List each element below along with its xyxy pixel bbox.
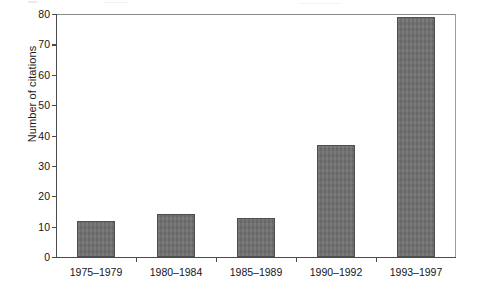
y-tick-mark — [52, 166, 57, 167]
y-tick-mark — [52, 75, 57, 76]
x-tick-mark — [296, 257, 297, 262]
plot-area: 01020304050607080 1975–19791980–19841985… — [56, 14, 456, 257]
y-tick-label: 70 — [38, 38, 50, 50]
bar-chart-figure: Number of citations 01020304050607080 19… — [0, 0, 477, 286]
x-tick-label: 1993–1997 — [390, 266, 443, 278]
y-tick-label: 0 — [44, 251, 50, 263]
x-tick-mark — [376, 257, 377, 262]
plot-frame-right — [455, 14, 456, 257]
bar — [317, 145, 355, 257]
bar — [77, 221, 115, 257]
y-tick-label: 20 — [38, 190, 50, 202]
x-tick-label: 1975–1979 — [70, 266, 123, 278]
y-tick-mark — [52, 227, 57, 228]
x-tick-mark — [216, 257, 217, 262]
x-tick-mark — [136, 257, 137, 262]
y-axis-title: Number of citations — [26, 14, 38, 174]
y-tick-label: 50 — [38, 99, 50, 111]
y-tick-label: 80 — [38, 8, 50, 20]
x-axis-line — [56, 257, 456, 258]
x-tick-label: 1980–1984 — [150, 266, 203, 278]
y-tick-mark — [52, 136, 57, 137]
y-tick-mark — [52, 14, 57, 15]
x-tick-label: 1990–1992 — [310, 266, 363, 278]
y-tick-mark — [52, 105, 57, 106]
scan-artifact — [28, 1, 37, 3]
y-tick-label: 30 — [38, 160, 50, 172]
y-tick-mark — [52, 44, 57, 45]
x-tick-label: 1985–1989 — [230, 266, 283, 278]
bar — [237, 218, 275, 257]
bar — [397, 17, 435, 257]
y-tick-label: 40 — [38, 130, 50, 142]
scan-artifact — [300, 3, 340, 4]
y-tick-mark — [52, 257, 57, 258]
y-tick-mark — [52, 196, 57, 197]
y-tick-label: 10 — [38, 221, 50, 233]
plot-frame-top — [56, 14, 456, 15]
y-tick-label: 60 — [38, 69, 50, 81]
bar — [157, 214, 195, 257]
scan-artifact — [104, 2, 128, 3]
